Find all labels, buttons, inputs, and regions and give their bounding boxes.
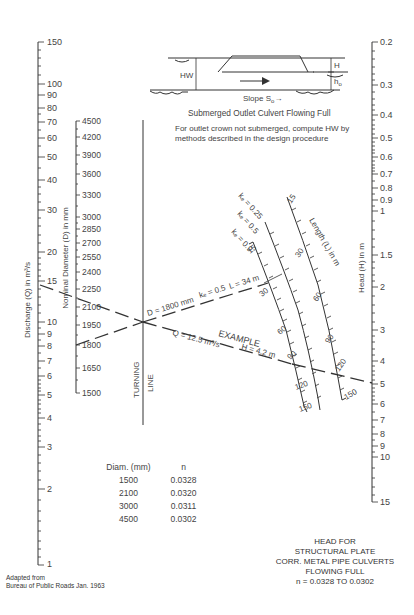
q-tick-label: 4: [47, 413, 52, 423]
table-row: 2100 0.0320: [101, 488, 211, 501]
table-row: 1500 0.0328: [101, 475, 211, 488]
slope-label: Slope So→: [243, 94, 282, 104]
ho-label: ho: [334, 77, 342, 87]
turning-line-label: TURNING: [132, 362, 141, 398]
diameter-cell: 2100: [101, 488, 156, 501]
q-tick-label: 20: [47, 247, 57, 257]
h-tick-label: 2: [380, 282, 385, 292]
h-tick-label: 0.5: [380, 133, 393, 143]
d-tick-label: 1500: [82, 388, 101, 398]
turning-line-label: LINE: [146, 374, 155, 392]
q-tick-label: 50: [47, 152, 57, 162]
h-tick-label: 9: [380, 441, 385, 451]
d-tick-label: 2100: [82, 302, 101, 312]
q-tick-label: 8: [47, 341, 52, 351]
h-tick-label: 1.5: [380, 250, 393, 260]
q-tick-label: 60: [47, 133, 57, 143]
q-tick-label: 70: [47, 117, 57, 127]
length-tick-label: 90: [286, 349, 299, 362]
length-axis-label: Length (L) in m: [307, 217, 342, 268]
diameter-cell: 1500: [101, 475, 156, 488]
n-cell: 0.0302: [156, 514, 211, 527]
h-tick-label: 0.6: [380, 152, 393, 162]
title-line: CORR. METAL PIPE CULVERTS: [270, 557, 400, 567]
q-tick-label: 40: [47, 175, 57, 185]
column-header: n: [156, 462, 211, 475]
q-tick-label: 100: [47, 79, 62, 89]
inset-note-line1: For outlet crown not submerged, compute …: [175, 124, 349, 133]
d-tick-label: 4200: [82, 132, 101, 142]
length-tick-label: 90: [323, 332, 336, 345]
h-tick-label: 8: [380, 429, 385, 439]
diameter-cell: 4500: [101, 514, 156, 527]
q-tick-label: 90: [47, 90, 57, 100]
q-tick-label: 80: [47, 103, 57, 113]
q-tick-label: 3: [47, 442, 52, 452]
length-tick-label: 120: [333, 357, 348, 374]
table-row: 3000 0.0311: [101, 501, 211, 514]
d-tick-label: 1950: [82, 320, 101, 330]
inset-caption: Submerged Outlet Culvert Flowing Full: [188, 108, 331, 118]
head-axis: 0.2 0.3 0.4 0.5 0.6 0.7 0.8 0.9 1 1.5 2 …: [357, 37, 393, 507]
d-tick-label: 1650: [82, 363, 101, 373]
credit-line: Bureau of Public Roads Jan. 1963: [6, 582, 105, 590]
table-header: Diam. (mm) n: [101, 462, 211, 475]
q-tick-label: 7: [47, 356, 52, 366]
head-axis-label: Head (H) in m: [357, 243, 366, 293]
d-tick-label: 2250: [82, 284, 101, 294]
length-tick-label: 30: [293, 246, 306, 259]
n-cell: 0.0311: [156, 501, 211, 514]
length-tick-label: 15: [285, 192, 298, 205]
q-tick-label: 2: [47, 484, 52, 494]
credit-line: Adapted from: [6, 574, 105, 582]
h-tick-label: 0.9: [380, 195, 393, 205]
n-cell: 0.0320: [156, 488, 211, 501]
h-tick-label: 3: [380, 325, 385, 335]
diameter-axis: 4500 4200 3900 3600 3300 3000 2850 2700 …: [61, 116, 101, 398]
q-tick-label: 150: [47, 37, 62, 47]
diameter-cell: 3000: [101, 501, 156, 514]
source-credit: Adapted from Bureau of Public Roads Jan.…: [6, 574, 105, 590]
h-label: H: [334, 61, 340, 70]
d-tick-label: 2850: [82, 224, 101, 234]
d-tick-label: 2700: [82, 238, 101, 248]
turning-line: TURNING LINE: [132, 120, 155, 425]
q-tick-label: 10: [47, 317, 57, 327]
q-tick-label: 30: [47, 205, 57, 215]
h-tick-label: 1: [380, 206, 385, 216]
example-q-label: Q = 12.5 m³/s: [171, 328, 220, 349]
length-tick-label: 60: [276, 324, 289, 337]
title-line: FLOWING FULL: [270, 567, 400, 577]
length-tick-label: 150: [298, 401, 314, 414]
length-tick-label: 120: [294, 379, 310, 392]
n-value-table: Diam. (mm) n 1500 0.0328 2100 0.0320 300…: [101, 462, 211, 527]
d-tick-label: 3600: [82, 169, 101, 179]
length-curves: kₑ = 0.25 kₑ = 0.5 kₑ = 0.9 15 30 60 90 …: [230, 191, 360, 414]
h-tick-label: 0.4: [380, 110, 393, 120]
q-tick-label: 15: [47, 276, 57, 286]
n-cell: 0.0328: [156, 475, 211, 488]
discharge-axis-label: Discharge (Q) in m³/s: [23, 262, 32, 338]
column-header: Diam. (mm): [101, 462, 156, 475]
chart-title-block: HEAD FOR STRUCTURAL PLATE CORR. METAL PI…: [270, 537, 400, 587]
h-tick-label: 7: [380, 415, 385, 425]
discharge-axis: 150 100 90 80 70 60 50 40 30 20 15 10 9 …: [23, 37, 62, 569]
table-row: 4500 0.0302: [101, 514, 211, 527]
h-tick-label: 10: [380, 452, 390, 462]
h-tick-label: 0.7: [380, 169, 393, 179]
title-line: HEAD FOR: [270, 537, 400, 547]
d-tick-label: 3900: [82, 150, 101, 160]
example-d-label: D = 1800 mm: [146, 295, 195, 318]
h-tick-label: 4: [380, 356, 385, 366]
culvert-sketch: HW H ho Slope So→: [150, 56, 348, 104]
q-tick-label: 9: [47, 329, 52, 339]
h-tick-label: 0.8: [380, 183, 393, 193]
inset-note-line2: methods described in the design procedur…: [175, 134, 328, 143]
title-line: STRUCTURAL PLATE: [270, 547, 400, 557]
q-tick-label: 5: [47, 390, 52, 400]
d-tick-label: 2400: [82, 267, 101, 277]
q-tick-label: 6: [47, 371, 52, 381]
d-tick-label: 3300: [82, 190, 101, 200]
h-tick-label: 6: [380, 399, 385, 409]
h-tick-label: 0.2: [380, 37, 393, 47]
